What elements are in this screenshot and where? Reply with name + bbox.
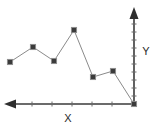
y-axis [130,7,139,104]
data-point-3 [51,58,56,63]
data-point-7 [131,101,136,106]
data-point-1 [7,59,12,64]
arrow-up-icon [130,7,139,19]
data-point-4 [71,27,76,32]
arrow-left-icon [4,100,16,109]
data-point-markers [7,27,136,106]
line-chart: X Y [0,0,160,127]
x-axis-label: X [64,112,72,124]
chart-container: X Y [0,0,160,127]
y-axis-label: Y [142,45,150,57]
data-point-5 [90,74,95,79]
data-point-2 [30,44,35,49]
x-axis [4,100,134,109]
data-point-6 [110,68,115,73]
data-series-line [10,30,134,104]
